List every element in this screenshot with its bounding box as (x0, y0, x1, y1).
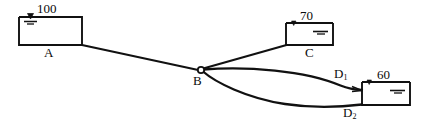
head-label-c: 70 (300, 9, 313, 22)
head-label-a: 100 (37, 2, 57, 15)
label-d2: D2 (343, 106, 356, 119)
head-label-d: 60 (377, 68, 390, 81)
water-level-symbol-a (24, 14, 37, 25)
label-d1-sub: 1 (343, 73, 347, 82)
pipe-a-b (82, 45, 201, 71)
pipe-b-c (202, 45, 287, 69)
reservoir-d (362, 80, 410, 105)
label-d1-base: D (334, 66, 343, 81)
label-d1: D1 (334, 67, 347, 80)
reservoir-label-c: C (305, 46, 314, 59)
reservoir-label-a: A (44, 46, 53, 59)
label-d2-sub: 2 (352, 112, 356, 121)
reservoir-c (286, 21, 333, 45)
diagram-canvas: 100 A 70 C 60 B D1 D2 (0, 0, 423, 131)
label-d2-base: D (343, 105, 352, 120)
junction-label-b: B (193, 74, 202, 87)
reservoir-a (19, 14, 82, 46)
pipe-network-svg (0, 0, 423, 131)
